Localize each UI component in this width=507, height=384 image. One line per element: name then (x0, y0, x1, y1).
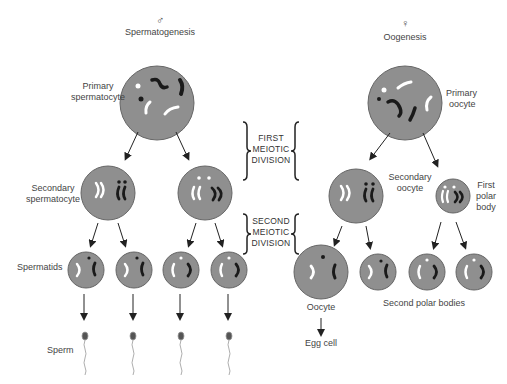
female-symbol-icon: ♀ (395, 17, 415, 29)
second-division-line2: MEIOTIC (246, 227, 296, 238)
egg-cell-label: Egg cell (291, 338, 351, 349)
second-polar-body-cell-3 (456, 254, 492, 290)
second-division-line1: SECOND (246, 216, 296, 227)
first-division-line1: FIRST (246, 133, 296, 144)
secondary-oocyte-label-line1: Secondary (375, 172, 445, 183)
second-polar-bodies-label: Second polar bodies (383, 298, 465, 309)
spermatid-cell-3 (163, 252, 199, 288)
spermatid-cell-2 (116, 252, 152, 288)
primary-spermatocyte-cell (120, 66, 194, 140)
secondary-spermatocyte-label-line1: Secondary (20, 183, 86, 194)
primary-oocyte-label-line1: Primary (446, 88, 477, 99)
oocyte-label: Oocyte (296, 302, 346, 313)
spermatid-cell-4 (211, 252, 247, 288)
primary-spermatocyte-label-line2: spermatocyte (58, 92, 138, 103)
male-symbol-icon: ♂ (150, 14, 170, 26)
first-polar-body-label-line2: polar (470, 191, 502, 202)
secondary-oocyte-label-line2: oocyte (375, 183, 445, 194)
first-division-line3: DIVISION (246, 155, 296, 166)
first-polar-body-label-line1: First (470, 180, 502, 191)
first-division-line2: MEIOTIC (246, 144, 296, 155)
second-polar-body-cell-2 (409, 254, 445, 290)
spermatids-label: Spermatids (17, 262, 63, 273)
oocyte-cell (294, 245, 348, 299)
second-polar-body-cell-1 (360, 254, 396, 290)
secondary-spermatocyte-cell-2 (178, 166, 232, 220)
sperm-label: Sperm (47, 345, 74, 356)
first-polar-body-label-line3: body (470, 202, 502, 213)
secondary-spermatocyte-cell-1 (81, 166, 135, 220)
secondary-spermatocyte-label-line2: spermatocyte (20, 194, 86, 205)
primary-spermatocyte-label-line1: Primary (58, 81, 138, 92)
sperm-cells (82, 332, 232, 375)
second-division-line3: DIVISION (246, 238, 296, 249)
primary-oocyte-label-line2: oocyte (449, 99, 476, 110)
primary-oocyte-cell (368, 66, 442, 140)
spermatogenesis-title: Spermatogenesis (110, 27, 210, 38)
spermatid-cell-1 (68, 252, 104, 288)
oogenesis-title: Oogenesis (375, 32, 435, 43)
